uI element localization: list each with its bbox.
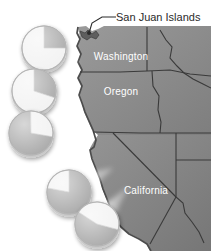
map-figure: San Juan Islands Washington Oregon Calif… (0, 0, 211, 251)
state-label-california: California (124, 185, 168, 196)
washington-oregon-landmass (77, 26, 211, 135)
san-juan-islands-marker (87, 31, 91, 35)
san-juan-islands-label: San Juan Islands (116, 11, 201, 23)
coast-site-2[interactable] (12, 69, 56, 115)
coast-site-5[interactable] (75, 202, 119, 248)
state-label-washington: Washington (94, 51, 148, 62)
coast-site-3[interactable] (9, 111, 53, 157)
map-canvas: San Juan Islands Washington Oregon Calif… (0, 0, 211, 251)
coast-site-1[interactable] (22, 26, 66, 72)
state-label-oregon: Oregon (104, 86, 139, 97)
